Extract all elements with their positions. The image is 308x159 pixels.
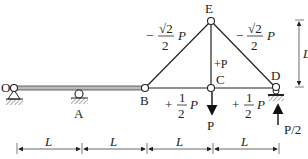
load-label-C: P: [207, 118, 214, 133]
dim-label-1: L: [44, 134, 52, 149]
joint-D: [273, 84, 280, 91]
svg-text:1: 1: [246, 90, 253, 105]
svg-text:√2: √2: [159, 21, 173, 36]
load-label-D: P/2: [284, 122, 301, 137]
svg-text:√2: √2: [248, 21, 262, 36]
force-label-CD: + 1 2 P: [232, 90, 265, 121]
force-label-EC: +P: [214, 57, 228, 71]
label-B: B: [140, 93, 149, 108]
joint-B: [142, 85, 149, 92]
force-label-BC: + 1 2 P: [165, 90, 198, 121]
label-C: C: [216, 72, 225, 87]
svg-text:P: P: [256, 97, 265, 112]
svg-text:2: 2: [178, 106, 185, 121]
truss-diagram: O A B C D E − √2 2 P − √2 2 P +P + 1 2 P…: [0, 0, 308, 159]
joint-O: [11, 85, 18, 92]
force-label-ED: − √2 2 P: [236, 21, 275, 53]
svg-text:P: P: [177, 28, 186, 43]
svg-text:+: +: [165, 97, 172, 112]
horizontal-dimensions: L L L L: [17, 134, 279, 154]
joint-E: [208, 18, 215, 25]
svg-text:P: P: [266, 28, 275, 43]
label-E: E: [205, 1, 213, 16]
load-arrow-C: P: [207, 92, 214, 133]
svg-text:2: 2: [251, 38, 258, 53]
label-A: A: [74, 106, 84, 121]
label-D: D: [271, 68, 280, 83]
svg-text:1: 1: [179, 90, 186, 105]
vertical-dimension-label: L: [302, 46, 308, 61]
beam-OB: [14, 86, 145, 90]
joint-C: [208, 85, 215, 92]
svg-text:+: +: [232, 97, 239, 112]
svg-text:−: −: [146, 28, 153, 43]
dim-label-4: L: [240, 134, 248, 149]
label-O: O: [1, 80, 10, 95]
svg-text:−: −: [236, 28, 243, 43]
dim-label-3: L: [175, 134, 183, 149]
force-label-BE: − √2 2 P: [146, 21, 186, 53]
roller-support-A: [71, 90, 88, 104]
svg-text:2: 2: [162, 38, 169, 53]
svg-text:P: P: [189, 97, 198, 112]
vertical-dimension: L: [295, 20, 308, 87]
dim-label-2: L: [109, 134, 117, 149]
svg-text:2: 2: [245, 106, 252, 121]
load-arrow-D: P/2: [278, 106, 301, 137]
